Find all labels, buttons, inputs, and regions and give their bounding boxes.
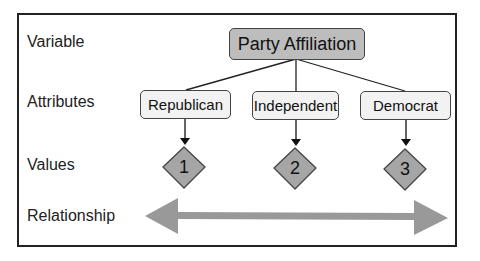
connector-variable-republican [186,59,296,90]
attribute-box-democrat: Democrat [360,91,451,120]
arrowhead-icon [291,139,301,146]
value-label-3: 3 [390,159,420,180]
connector-variable-democrat [296,59,405,91]
attribute-box-republican: Republican [140,90,231,119]
variable-box: Party Affiliation [229,28,365,60]
value-label-1: 1 [169,157,199,178]
attribute-box-independent: Independent [252,91,339,120]
arrowhead-icon [180,138,190,145]
value-label-2: 2 [280,158,310,179]
relationship-double-arrow-icon [145,198,448,235]
arrowhead-icon [401,139,411,146]
